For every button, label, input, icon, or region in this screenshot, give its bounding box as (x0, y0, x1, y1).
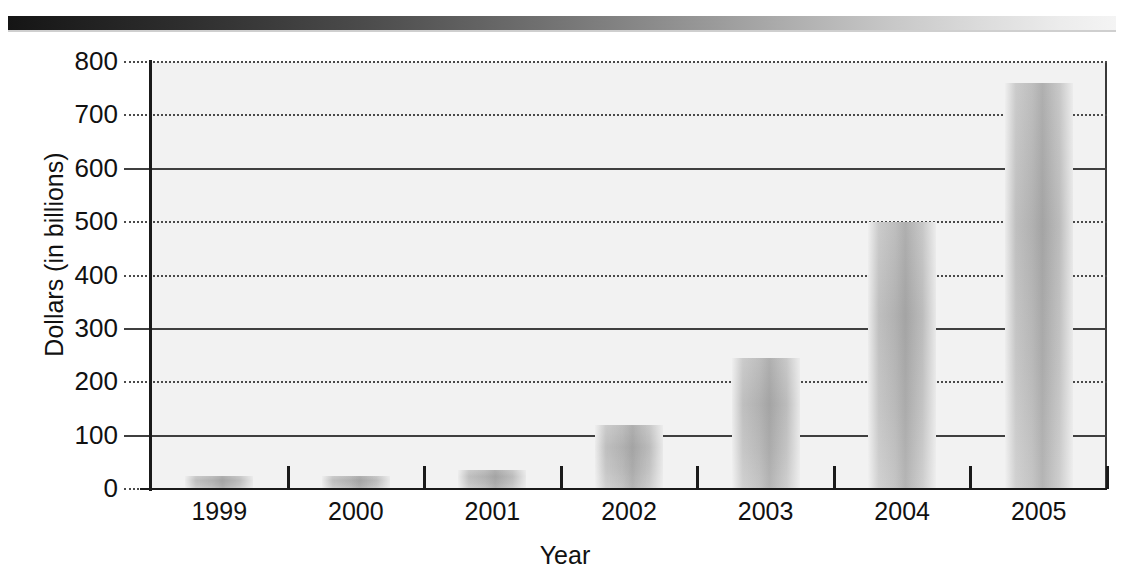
x-axis-tick-3 (560, 466, 563, 489)
x-tick-label-2005: 2005 (979, 497, 1099, 526)
x-axis-tick-5 (833, 466, 836, 489)
bar-chart: 8007006005004003002001000 Dollars (in bi… (0, 0, 1130, 574)
x-axis-tick-4 (696, 466, 699, 489)
x-tick-label-2004: 2004 (842, 497, 962, 526)
x-axis-tick-2 (423, 466, 426, 489)
x-tick-label-2000: 2000 (296, 497, 416, 526)
x-tick-label-1999: 1999 (159, 497, 279, 526)
x-tick-label-2002: 2002 (569, 497, 689, 526)
x-axis-ticks (0, 0, 1130, 574)
x-tick-label-2003: 2003 (706, 497, 826, 526)
x-axis-tick-7 (1106, 466, 1109, 489)
x-axis-tick-6 (969, 466, 972, 489)
x-axis-title: Year (0, 541, 1130, 570)
x-axis-tick-1 (287, 466, 290, 489)
x-tick-label-2001: 2001 (432, 497, 552, 526)
